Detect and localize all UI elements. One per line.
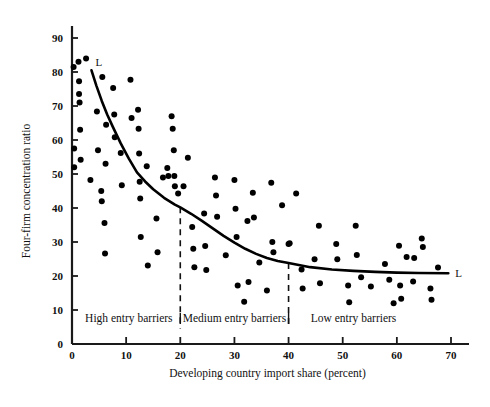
data-point xyxy=(251,215,257,221)
data-point xyxy=(169,113,175,119)
data-point xyxy=(101,220,107,226)
data-point xyxy=(138,234,144,240)
data-point xyxy=(256,259,262,265)
data-point xyxy=(419,236,425,242)
chart-figure: 0102030405060708090010203040506070Develo… xyxy=(0,0,490,407)
data-point xyxy=(171,173,177,179)
data-point xyxy=(136,151,142,157)
data-point xyxy=(201,210,207,216)
y-tick-label: 0 xyxy=(58,338,64,350)
data-point xyxy=(144,163,150,169)
data-point xyxy=(94,108,100,114)
data-point xyxy=(346,299,352,305)
data-point xyxy=(103,122,109,128)
data-point xyxy=(300,286,306,292)
x-tick-label: 70 xyxy=(446,349,458,361)
svg-text:Four-firm concentration ratio: Four-firm concentration ratio xyxy=(20,123,32,258)
data-point xyxy=(181,183,187,189)
data-point xyxy=(269,239,275,245)
data-point xyxy=(231,177,237,183)
data-point xyxy=(435,265,441,271)
data-point xyxy=(334,256,340,262)
data-point xyxy=(382,261,388,267)
data-point xyxy=(71,64,77,70)
data-point xyxy=(241,299,247,305)
data-point xyxy=(420,244,426,250)
y-tick-label: 20 xyxy=(52,270,64,282)
y-axis-label: Four-firm concentration ratio xyxy=(20,123,32,258)
x-tick-label: 10 xyxy=(121,349,133,361)
data-point xyxy=(386,277,392,283)
data-point xyxy=(312,256,318,262)
data-point xyxy=(112,134,118,140)
data-point xyxy=(155,249,161,255)
curve-label-right: L xyxy=(455,267,462,279)
data-point xyxy=(77,127,83,133)
region-label-low: Low entry barriers xyxy=(311,312,397,325)
data-point xyxy=(71,146,77,152)
data-point xyxy=(135,107,141,113)
data-point xyxy=(103,161,109,167)
data-point xyxy=(287,240,293,246)
data-point xyxy=(246,279,252,285)
data-point xyxy=(391,300,397,306)
y-tick-label: 10 xyxy=(52,304,64,316)
data-point xyxy=(268,180,274,186)
data-point xyxy=(78,157,84,163)
data-point xyxy=(410,278,416,284)
data-point xyxy=(279,202,285,208)
y-tick-label: 90 xyxy=(52,32,64,44)
x-tick-label: 20 xyxy=(175,349,187,361)
data-point xyxy=(368,284,374,290)
data-point xyxy=(202,243,208,249)
data-point xyxy=(118,150,124,156)
scatter-plot: 0102030405060708090010203040506070Develo… xyxy=(0,0,490,407)
data-point xyxy=(98,188,104,194)
data-point xyxy=(129,115,135,121)
data-point xyxy=(185,155,191,161)
data-point xyxy=(396,243,402,249)
data-point xyxy=(95,147,101,153)
data-point xyxy=(317,280,323,286)
data-point xyxy=(353,223,359,229)
data-point xyxy=(212,174,218,180)
data-point xyxy=(398,296,404,302)
data-point xyxy=(136,126,142,132)
data-point xyxy=(250,190,256,196)
x-tick-label: 60 xyxy=(391,349,403,361)
data-point xyxy=(127,77,133,83)
data-point xyxy=(234,234,240,240)
data-point xyxy=(165,173,171,179)
data-point xyxy=(76,91,82,97)
data-point xyxy=(76,78,82,84)
data-point xyxy=(333,241,339,247)
data-point xyxy=(99,198,105,204)
y-tick-label: 70 xyxy=(52,100,64,112)
data-point xyxy=(175,190,181,196)
data-point xyxy=(145,262,151,268)
data-point xyxy=(153,216,159,222)
data-point xyxy=(223,252,229,258)
x-tick-label: 30 xyxy=(229,349,241,361)
data-point xyxy=(293,190,299,196)
data-point xyxy=(345,283,351,289)
data-point xyxy=(427,286,433,292)
data-point xyxy=(99,74,105,80)
data-point xyxy=(83,55,89,61)
data-point xyxy=(87,177,93,183)
y-tick-label: 50 xyxy=(52,168,64,180)
data-point xyxy=(171,147,177,153)
data-point xyxy=(411,255,417,261)
data-point xyxy=(299,267,305,273)
region-label-medium: Medium entry barriers xyxy=(183,312,287,325)
data-point xyxy=(264,288,270,294)
data-point xyxy=(137,179,143,185)
data-point xyxy=(270,249,276,255)
x-tick-label: 40 xyxy=(283,349,295,361)
x-axis-label: Developing country import share (percent… xyxy=(169,367,366,380)
data-point xyxy=(244,218,250,224)
data-point xyxy=(189,224,195,230)
y-tick-label: 40 xyxy=(52,202,64,214)
data-point xyxy=(214,214,220,220)
y-tick-label: 80 xyxy=(52,66,64,78)
